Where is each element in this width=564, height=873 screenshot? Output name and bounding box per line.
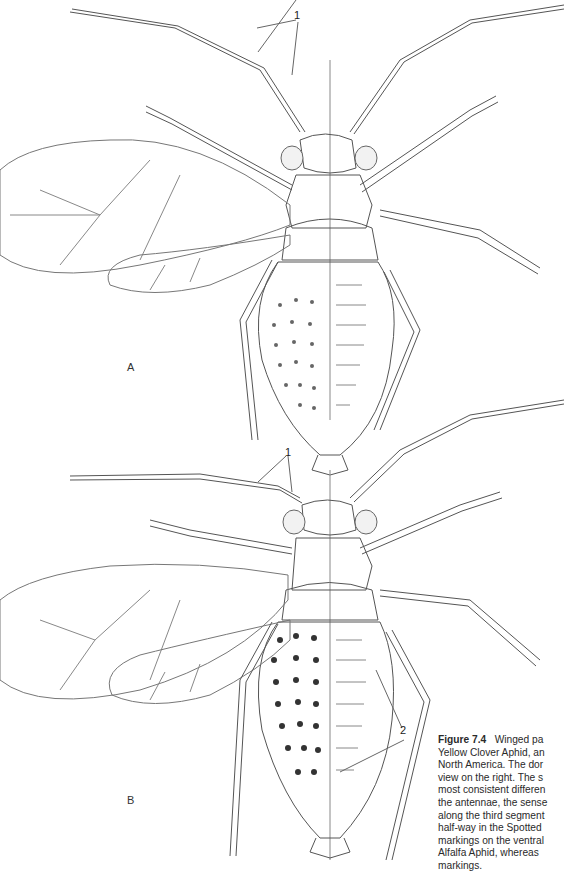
caption-line-4: view on the right. The s bbox=[438, 772, 564, 785]
panel-label-b: B bbox=[127, 794, 134, 806]
caption-line-5: most consistent differen bbox=[438, 784, 564, 797]
callout-1-panel-a: 1 bbox=[294, 9, 300, 21]
callout-1-panel-b: 1 bbox=[285, 446, 291, 458]
figure-number: Figure 7.4 bbox=[438, 734, 486, 745]
figure-caption: Figure 7.4 Winged pa Yellow Clover Aphid… bbox=[438, 734, 564, 873]
caption-line-2: Yellow Clover Aphid, an bbox=[438, 747, 564, 760]
aphid-a-drawing bbox=[0, 0, 564, 475]
callout-2-panel-b: 2 bbox=[400, 724, 406, 736]
panel-label-a: A bbox=[127, 361, 134, 373]
caption-line-1: Winged pa bbox=[495, 734, 544, 745]
caption-line-6: the antennae, the sense bbox=[438, 797, 564, 810]
caption-line-3: North America. The dor bbox=[438, 759, 564, 772]
caption-line-7: along the third segment bbox=[438, 810, 564, 823]
caption-line-9: markings on the ventral bbox=[438, 835, 564, 848]
caption-line-10: Alfalfa Aphid, whereas bbox=[438, 847, 564, 860]
caption-line-8: half-way in the Spotted bbox=[438, 822, 564, 835]
caption-line-11: markings. bbox=[438, 860, 564, 873]
